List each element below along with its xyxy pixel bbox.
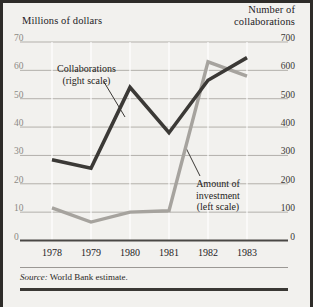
left-tick-label: 20 (14, 175, 36, 185)
x-tick-label: 1980 (110, 248, 150, 258)
right-tick-label: 200 (267, 175, 295, 185)
right-tick-label: 400 (267, 118, 295, 128)
source-divider (20, 267, 288, 268)
leader-line-collaborations (104, 82, 125, 117)
source-label: Source: (20, 272, 48, 282)
annotation-leader-lines (104, 82, 200, 176)
annotation-investment-line3: (left scale) (196, 201, 240, 213)
right-tick-label: 300 (267, 146, 295, 156)
chart-figure: Millions of dollars Number of collaborat… (0, 0, 313, 307)
left-tick-label: 30 (14, 146, 36, 156)
right-tick-label: 100 (267, 203, 295, 213)
annotation-collaborations-line1: Collaborations (57, 63, 116, 74)
left-tick-label: 60 (14, 61, 36, 71)
annotation-investment-line2: investment (196, 190, 240, 202)
left-tick-label: 70 (14, 33, 36, 43)
x-tick-label: 1981 (149, 248, 189, 258)
annotation-collaborations-line2: (right scale) (57, 75, 116, 87)
x-tick-label: 1982 (188, 248, 228, 258)
left-tick-label: 0 (14, 232, 36, 242)
source-note: Source: World Bank estimate. (20, 272, 128, 282)
x-tick-label: 1979 (71, 248, 111, 258)
right-tick-label: 500 (267, 90, 295, 100)
left-tick-label: 50 (14, 90, 36, 100)
annotation-investment: Amount of investment (left scale) (196, 178, 240, 213)
leader-line-investment (186, 148, 200, 176)
right-tick-label: 700 (267, 33, 295, 43)
left-tick-label: 10 (14, 203, 36, 213)
annotation-investment-line1: Amount of (196, 178, 240, 189)
source-text: World Bank estimate. (48, 272, 128, 282)
x-tick-label: 1983 (227, 248, 267, 258)
right-tick-label: 600 (267, 61, 295, 71)
left-tick-label: 40 (14, 118, 36, 128)
figure-bottom-rule (20, 288, 288, 291)
right-tick-label: 0 (267, 232, 295, 242)
annotation-collaborations: Collaborations (right scale) (57, 63, 116, 86)
x-tick-label: 1978 (32, 248, 72, 258)
